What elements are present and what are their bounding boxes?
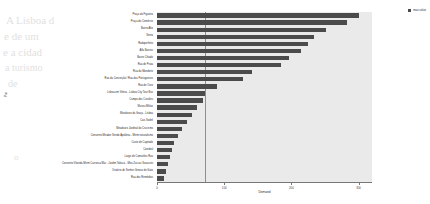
bar [157, 77, 243, 81]
y-axis-tick-label: Bairro Chiado [137, 56, 153, 61]
bar [157, 141, 174, 145]
bar-row [157, 56, 372, 60]
x-axis-tick [157, 183, 158, 185]
y-axis-tick-label: Rodoperfeito [138, 42, 153, 47]
bar [157, 49, 301, 53]
y-axis-tick-label: Convento Mirador Sendo Apolónia - Mirim … [91, 134, 153, 139]
x-axis-tick [224, 183, 225, 185]
bar [157, 91, 205, 95]
bar-row [157, 134, 372, 138]
bar-row [157, 70, 372, 74]
y-axis-tick-label: Museu Militar [138, 105, 153, 110]
y-axis-tick-label: Miradouro da Graça - Lisboa [120, 112, 153, 117]
y-axis-tick-label: Alfa Bairros [140, 49, 153, 54]
bar-row [157, 141, 372, 145]
x-axis: 0100200300 [157, 182, 372, 185]
bar-row [157, 120, 372, 124]
bar-row [157, 63, 372, 67]
y-axis-tick-label: Campo dos Cravões [129, 98, 153, 103]
bar [157, 169, 166, 173]
y-axis-tick-label: Rua de Ouro [138, 84, 153, 89]
square-marker-icon [408, 9, 411, 12]
y-axis-tick-label: Sintra [146, 34, 153, 39]
bar-row [157, 91, 372, 95]
bar-row [157, 35, 372, 39]
x-axis-title: Demand [157, 190, 372, 194]
bar [157, 13, 359, 17]
y-axis-tick-label: Cais Sodré [140, 119, 153, 124]
y-axis-tick-label: Catedral [143, 148, 153, 153]
bar [157, 127, 182, 131]
bar-row [157, 13, 372, 17]
x-axis-tick [359, 183, 360, 185]
bar-row [157, 42, 372, 46]
bar [157, 56, 289, 60]
y-axis-tick-label: Rua da Conceição / Rua das Portugueses [105, 77, 153, 82]
bar-row [157, 169, 372, 173]
y-axis-tick-label: Oratório de Senhor Ginoso de Gato [112, 169, 153, 174]
bar [157, 98, 203, 102]
bar [157, 176, 164, 180]
bar-row [157, 105, 372, 109]
bar [157, 148, 172, 152]
bar [157, 20, 347, 24]
y-axis-tick-label: Lisboa em Vitória - Lisboa City Tour Bus [107, 91, 153, 96]
y-axis-tick-label: Convento Vitanda Mirim Carrossa Mar - Ja… [62, 162, 153, 167]
y-axis-tick-label: Largo de Camarões Rua [125, 155, 153, 160]
bar [157, 42, 308, 46]
bar [157, 155, 170, 159]
bar-row [157, 77, 372, 81]
bar [157, 105, 197, 109]
y-axis-tick-label: Custo de Capitado [132, 141, 154, 146]
bar-row [157, 162, 372, 166]
y-axis-tick-label: Bairro Alto [141, 27, 153, 32]
y-axis-tick-label: Praça do Comércio [131, 20, 153, 25]
y-axis-tick-label: Miradouro Jardinal do Crucismo [116, 127, 153, 132]
bar-row [157, 84, 372, 88]
bar [157, 70, 252, 74]
bar-row [157, 98, 372, 102]
bar-row [157, 127, 372, 131]
plot-area [157, 12, 372, 182]
bar-row [157, 20, 372, 24]
bar-row [157, 176, 372, 180]
bar-row [157, 28, 372, 32]
x-axis-tick [291, 183, 292, 185]
bar-row [157, 155, 372, 159]
legend: max value [408, 8, 426, 12]
bar-row [157, 49, 372, 53]
bar [157, 28, 326, 32]
y-axis-tick-label: Rua do Mondeiro [133, 70, 153, 75]
bar [157, 35, 314, 39]
bar [157, 120, 187, 124]
y-axis-tick-label: Rua dos Remédios [131, 176, 153, 181]
y-axis-tick-label: Praça do Figueira [133, 13, 153, 18]
bar [157, 162, 168, 166]
bar-row [157, 113, 372, 117]
bar [157, 134, 178, 138]
bar [157, 63, 281, 67]
bar-row [157, 148, 372, 152]
y-axis-tick-label: Rua de Prata [138, 63, 153, 68]
legend-label: max value [413, 8, 426, 12]
bar [157, 113, 192, 117]
y-axis-tick-labels: Praça do FigueiraPraça do ComércioBairro… [0, 12, 155, 182]
bar-chart-figure: Poi Praça do FigueiraPraça do ComércioBa… [0, 0, 430, 204]
bar [157, 84, 217, 88]
